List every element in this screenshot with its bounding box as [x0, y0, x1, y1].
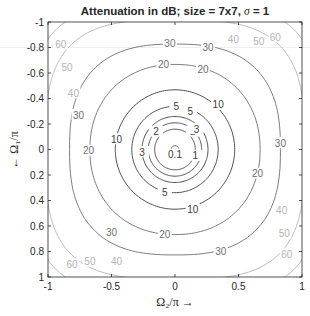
- contour-label: 0.1: [168, 149, 182, 160]
- contour-label: 60: [270, 32, 282, 43]
- contour-label: 10: [111, 134, 123, 145]
- contour-label: 20: [197, 64, 209, 75]
- y-tick-label: 0.4: [30, 195, 44, 206]
- y-tick-label: 0.6: [30, 221, 44, 232]
- chart-title: Attenuation in dB; size = 7x7, σ = 1: [81, 5, 270, 17]
- x-tick-label: -0.5: [103, 281, 121, 292]
- contour-label: 20: [158, 59, 170, 70]
- y-tick-label: -1: [35, 17, 44, 28]
- contour-label: 60: [281, 249, 293, 260]
- contour-label: 20: [83, 145, 95, 156]
- x-tick-label: -1: [44, 281, 53, 292]
- y-axis-label: ← Ω₁/π: [7, 131, 21, 169]
- contour-label: 50: [253, 36, 265, 47]
- contour-label: 60: [55, 39, 67, 50]
- x-tick-label: 0.5: [232, 281, 246, 292]
- contour-label: 30: [164, 38, 176, 49]
- contour-label: 10: [213, 99, 225, 110]
- contour-label: 5: [187, 106, 193, 117]
- y-tick-label: -0.8: [27, 42, 45, 53]
- x-axis-label: Ω₂/π →: [156, 295, 194, 309]
- contour-label: 20: [252, 168, 264, 179]
- y-tick-label: 1: [38, 272, 44, 283]
- contour-labels: 605040302010320.112355510102020202030303…: [54, 31, 294, 269]
- contour-label: 30: [106, 227, 118, 238]
- contour-label: 40: [276, 205, 288, 216]
- y-tick-label: -0.4: [27, 93, 45, 104]
- contour-label: 50: [84, 256, 96, 267]
- contour-label: 60: [67, 259, 79, 270]
- contour-label: 5: [162, 187, 168, 198]
- y-tick-label: 0: [38, 144, 44, 155]
- contour-figure: Attenuation in dB; size = 7x7, σ = 1 605…: [0, 0, 310, 316]
- y-tick-label: 0.2: [30, 170, 44, 181]
- x-tick-label: 0: [172, 281, 178, 292]
- contour-label: 5: [173, 101, 179, 112]
- y-tick-label: -0.6: [27, 68, 45, 79]
- contour-label: 30: [275, 138, 287, 149]
- plot-area: 605040302010320.112355510102020202030303…: [16, 0, 310, 308]
- contour-label: 1: [193, 150, 199, 161]
- contour-label: 30: [202, 42, 214, 53]
- contour-label: 30: [215, 246, 227, 257]
- contour-label: 3: [194, 124, 200, 135]
- contour-label: 40: [228, 34, 240, 45]
- contour-label: 50: [279, 228, 291, 239]
- contour-label: 30: [73, 110, 85, 121]
- y-tick-label: 0.8: [30, 246, 44, 257]
- contour-label: 20: [159, 229, 171, 240]
- y-tick-label: -0.2: [27, 119, 45, 130]
- contour-label: 3: [139, 147, 145, 158]
- contour-label: 40: [111, 256, 123, 267]
- contour-label: 2: [153, 126, 159, 137]
- x-tick-label: 1: [299, 281, 305, 292]
- contour-label: 40: [68, 88, 80, 99]
- contour-label: 50: [61, 62, 73, 73]
- contour-label: 10: [187, 204, 199, 215]
